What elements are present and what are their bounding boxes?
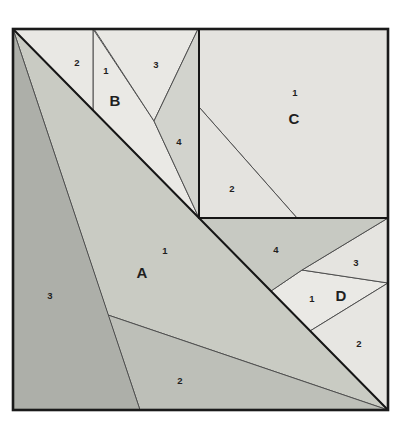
unit-label-D: D	[336, 287, 347, 304]
unit-label-A: A	[137, 264, 148, 281]
piece-number-label: 3	[353, 257, 358, 268]
piece-number-label: 3	[153, 59, 158, 70]
piece-number-label: 3	[47, 290, 52, 301]
piece-number-label: 1	[162, 245, 168, 256]
piece-number-label: 2	[229, 183, 234, 194]
piece-number-label: 2	[356, 338, 361, 349]
piece-number-label: 4	[176, 136, 182, 147]
piece-number-label: 2	[74, 57, 79, 68]
unit-label-B: B	[110, 92, 121, 109]
piece-number-label: 1	[309, 293, 315, 304]
diagram-canvas: 21B341C21A32431D2	[0, 0, 410, 429]
piece-number-label: 1	[292, 87, 298, 98]
unit-label-C: C	[289, 110, 300, 127]
piece-number-label: 4	[273, 244, 279, 255]
piece-number-label: 1	[103, 65, 109, 76]
piece-number-label: 2	[177, 375, 182, 386]
quilt-block-diagram: 21B341C21A32431D2	[0, 0, 410, 429]
